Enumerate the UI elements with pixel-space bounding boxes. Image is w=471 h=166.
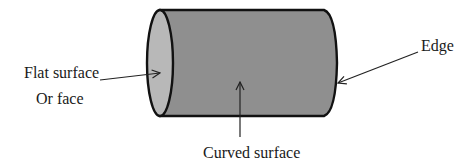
edge-arrow xyxy=(338,52,418,83)
curved-surface-label: Curved surface xyxy=(203,144,300,161)
cylinder-diagram: Flat surface Or face Curved surface Edge xyxy=(0,0,471,166)
edge-label: Edge xyxy=(421,37,454,55)
cylinder-curved-surface xyxy=(160,10,337,116)
flat-surface-label: Flat surface xyxy=(24,64,99,81)
cylinder-flat-face xyxy=(147,10,173,116)
or-face-label: Or face xyxy=(36,90,84,107)
